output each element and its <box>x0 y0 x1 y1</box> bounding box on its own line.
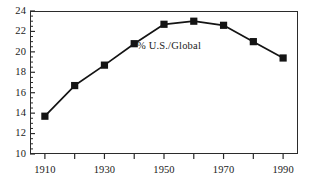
chart-container: 1012141618202224 19101930195019701990 % … <box>0 0 309 182</box>
x-axis-tick-label: 1910 <box>23 165 67 176</box>
x-axis-tick-label: 1970 <box>202 165 246 176</box>
series-annotation-label: % U.S./Global <box>137 40 201 51</box>
x-axis-tick-labels: 19101930195019701990 <box>0 0 309 182</box>
x-axis-tick-label: 1990 <box>261 165 305 176</box>
x-axis-tick-label: 1930 <box>82 165 126 176</box>
x-axis-tick-label: 1950 <box>142 165 186 176</box>
